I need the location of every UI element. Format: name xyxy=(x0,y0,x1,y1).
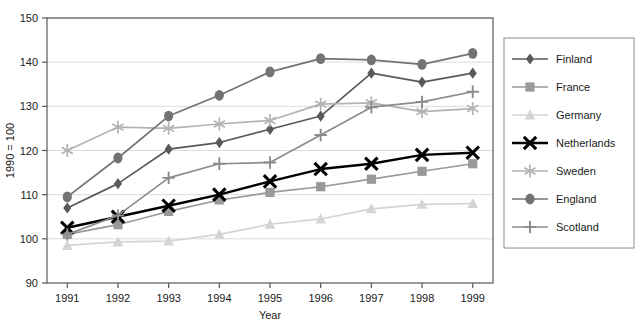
chart-canvas: 90100110120130140150 1991199219931994199… xyxy=(0,0,638,328)
x-tick-label: 1995 xyxy=(258,292,282,304)
line-chart: 90100110120130140150 1991199219931994199… xyxy=(0,0,638,328)
data-point-circle xyxy=(113,153,122,164)
x-tick-label: 1999 xyxy=(460,292,484,304)
x-tick-label: 1994 xyxy=(207,292,231,304)
data-point-square xyxy=(525,82,534,91)
data-point-square xyxy=(417,167,426,176)
legend-item-finland[interactable]: Finland xyxy=(505,45,633,73)
legend-item-scotland[interactable]: Scotland xyxy=(505,213,633,241)
data-point-circle xyxy=(63,191,72,202)
x-axis-title: Year xyxy=(259,309,282,321)
legend-item-netherlands[interactable]: Netherlands xyxy=(505,129,633,157)
x-tick-label: 1996 xyxy=(308,292,332,304)
data-point-circle xyxy=(215,90,224,101)
legend-item-england[interactable]: England xyxy=(505,185,633,213)
data-point-circle xyxy=(265,66,274,77)
y-tick-label: 130 xyxy=(20,100,38,112)
y-tick-label: 90 xyxy=(26,277,38,289)
y-axis-title: 1990 = 100 xyxy=(4,123,16,178)
chart-legend: FinlandFranceGermanyNetherlandsSwedenEng… xyxy=(504,38,634,248)
data-point-circle xyxy=(164,111,173,122)
x-tick-label: 1991 xyxy=(55,292,79,304)
legend-item-label: Netherlands xyxy=(556,137,616,149)
y-tick-label: 140 xyxy=(20,56,38,68)
data-point-circle xyxy=(468,48,477,59)
data-point-square xyxy=(367,175,376,184)
data-point-circle xyxy=(367,55,376,66)
legend-item-germany[interactable]: Germany xyxy=(505,101,633,129)
x-tick-label: 1992 xyxy=(106,292,130,304)
data-point-circle xyxy=(417,59,426,70)
y-tick-label: 110 xyxy=(20,189,38,201)
y-tick-label: 100 xyxy=(20,233,38,245)
legend-item-sweden[interactable]: Sweden xyxy=(505,157,633,185)
data-point-square xyxy=(265,188,274,197)
legend-item-label: Scotland xyxy=(556,221,599,233)
x-tick-label: 1993 xyxy=(156,292,180,304)
y-tick-label: 120 xyxy=(20,145,38,157)
y-tick-label: 150 xyxy=(20,12,38,24)
x-tick-label: 1998 xyxy=(410,292,434,304)
legend-item-label: Finland xyxy=(556,53,592,65)
data-point-square xyxy=(316,182,325,191)
legend-item-label: England xyxy=(556,193,596,205)
legend-item-label: Germany xyxy=(556,109,602,121)
legend-item-label: France xyxy=(556,81,590,93)
data-point-square xyxy=(468,159,477,168)
legend-item-france[interactable]: France xyxy=(505,73,633,101)
data-point-circle xyxy=(525,194,534,205)
legend-item-label: Sweden xyxy=(556,165,596,177)
x-tick-label: 1997 xyxy=(359,292,383,304)
data-point-circle xyxy=(316,53,325,64)
